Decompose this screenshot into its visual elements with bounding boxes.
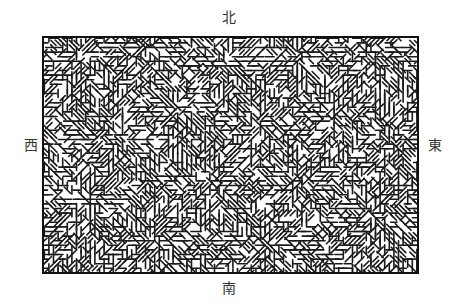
branching-pattern-graphic bbox=[42, 36, 419, 274]
drainage-pattern-frame bbox=[42, 36, 419, 274]
compass-west-label: 西 bbox=[24, 138, 38, 152]
compass-north-label: 北 bbox=[222, 10, 236, 24]
compass-south-label: 南 bbox=[222, 281, 236, 295]
compass-east-label: 東 bbox=[428, 138, 442, 152]
